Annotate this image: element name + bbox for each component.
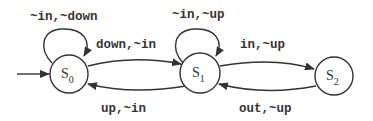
- edge-s1-s2: [220, 62, 314, 69]
- state-s0: S0: [50, 55, 88, 93]
- edge-s1-s0: [88, 84, 186, 90]
- state-s2: S2: [315, 57, 353, 95]
- edge-s0-s1: [88, 60, 181, 66]
- state-s1: S1: [180, 53, 220, 93]
- label-s0-s1: down,~in: [96, 38, 156, 52]
- label-s1-s2: in,~up: [240, 38, 285, 52]
- label-s0-s0: ~in,~down: [30, 10, 98, 24]
- label-s1-s1: ~in,~up: [172, 8, 225, 22]
- state-diagram: ~in,~down down,~in up,~in ~in,~up in,~up…: [0, 0, 373, 121]
- label-s2-s1: out,~up: [239, 102, 292, 116]
- label-s1-s0: up,~in: [101, 102, 146, 116]
- edge-s2-s1: [219, 84, 316, 90]
